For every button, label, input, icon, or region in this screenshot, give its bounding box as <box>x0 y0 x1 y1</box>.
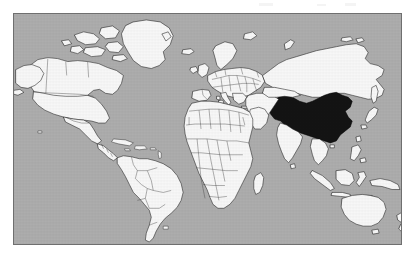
world-map-frame <box>13 13 402 245</box>
island-puerto-rico <box>150 148 156 150</box>
island-taiwan <box>356 136 361 142</box>
scan-artifact <box>317 4 326 6</box>
island-tasmania <box>372 229 379 234</box>
page-canvas <box>0 0 417 261</box>
island-sri-lanka <box>291 164 296 169</box>
world-map-graphic <box>14 14 401 244</box>
island-falklands <box>163 226 168 229</box>
island-hawaii <box>38 131 42 133</box>
island-hainan <box>330 145 334 148</box>
scan-artifact <box>259 3 273 6</box>
island-jamaica <box>124 149 130 151</box>
scan-artifact <box>345 3 356 6</box>
